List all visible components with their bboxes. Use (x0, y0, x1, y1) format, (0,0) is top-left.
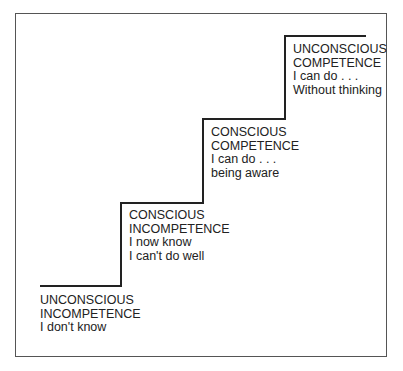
step-description: I don't know (40, 321, 141, 335)
step-title: COMPETENCE (293, 57, 387, 71)
step-title: UNCONSCIOUS (40, 294, 141, 308)
step-description: being aware (211, 167, 299, 181)
step-title: CONSCIOUS (129, 209, 230, 223)
step-title: COMPETENCE (211, 140, 299, 154)
step-conscious-competence: CONSCIOUS COMPETENCE I can do . . . bein… (211, 126, 299, 180)
step-conscious-incompetence: CONSCIOUS INCOMPETENCE I now know I can'… (129, 209, 230, 263)
step-title: INCOMPETENCE (40, 308, 141, 322)
step-title: UNCONSCIOUS (293, 43, 387, 57)
step-title: CONSCIOUS (211, 126, 299, 140)
step-unconscious-incompetence: UNCONSCIOUS INCOMPETENCE I don't know (40, 294, 141, 335)
step-description: I can't do well (129, 250, 230, 264)
step-title: INCOMPETENCE (129, 223, 230, 237)
step-unconscious-competence: UNCONSCIOUS COMPETENCE I can do . . . Wi… (293, 43, 387, 97)
step-description: I can do . . . (293, 70, 387, 84)
step-description: I can do . . . (211, 153, 299, 167)
step-description: I now know (129, 236, 230, 250)
step-description: Without thinking (293, 84, 387, 98)
